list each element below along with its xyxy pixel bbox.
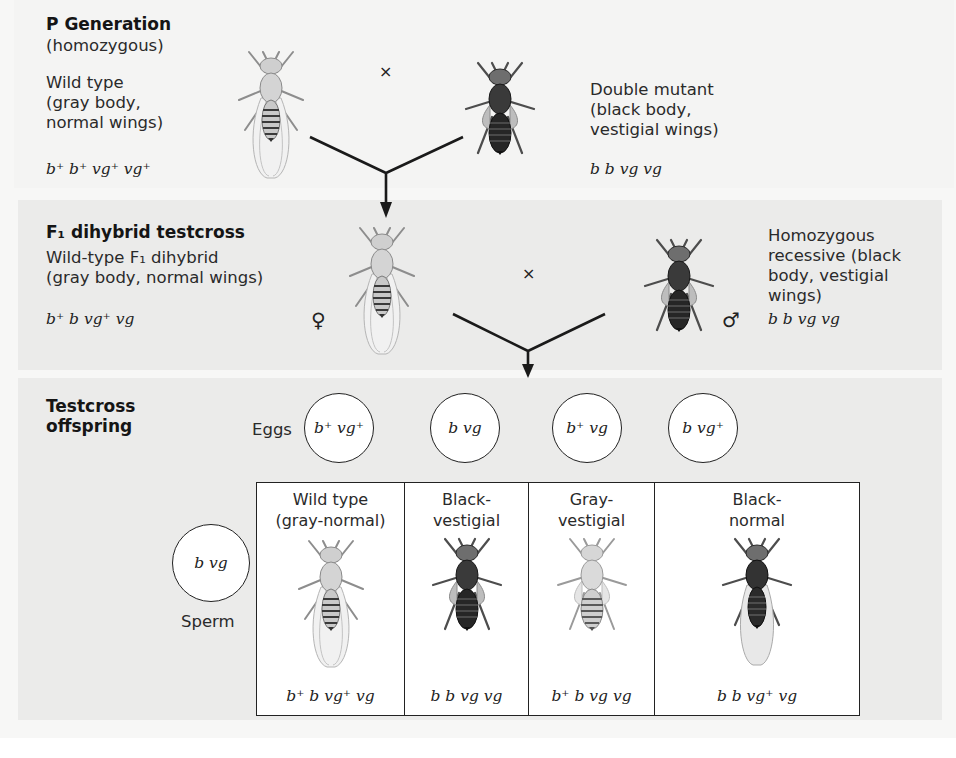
f1-male-fly-icon — [634, 232, 724, 342]
wild-type-genotype: b⁺ b⁺ vg⁺ vg⁺ — [46, 160, 151, 178]
f1-female-genotype: b⁺ b vg⁺ vg — [46, 310, 134, 328]
f1-male-label: Homozygous recessive (black body, vestig… — [768, 226, 901, 306]
offspring-cell-black-vestigial: Black- vestigial b b vg vg — [405, 483, 529, 715]
offspring-black-vestigial-fly-icon — [422, 535, 512, 645]
f1-cross-symbol: × — [522, 264, 535, 283]
p-generation-subtitle: (homozygous) — [46, 36, 164, 56]
f1-cross-arrow — [440, 300, 620, 380]
offspring-gray-vestigial-fly-icon — [547, 535, 637, 645]
double-mutant-label: Double mutant (black body, vestigial win… — [590, 80, 719, 140]
sperm-gamete: b vg — [172, 524, 250, 602]
testcross-offspring-title: Testcross offspring — [46, 396, 136, 436]
female-symbol-icon: ♀ — [311, 308, 326, 332]
offspring-black-normal-fly-icon — [712, 535, 802, 670]
f1-male-genotype: b b vg vg — [768, 310, 840, 328]
f1-female-fly-icon — [337, 218, 427, 358]
egg-gamete-2: b vg — [430, 393, 500, 463]
double-mutant-genotype: b b vg vg — [590, 160, 662, 178]
egg-gamete-4: b vg⁺ — [668, 393, 738, 463]
f1-testcross-title: F₁ dihybrid testcross — [46, 222, 245, 242]
eggs-label: Eggs — [252, 420, 292, 440]
punnett-offspring-grid: Wild type (gray-normal) b⁺ b vg⁺ vg Blac… — [256, 482, 860, 716]
wild-type-label: Wild type (gray body, normal wings) — [46, 73, 163, 133]
offspring-gray-normal-fly-icon — [286, 535, 376, 670]
p-generation-title: P Generation — [46, 14, 171, 34]
offspring-cell-wild-type: Wild type (gray-normal) b⁺ b vg⁺ vg — [257, 483, 405, 715]
egg-gamete-3: b⁺ vg — [552, 393, 622, 463]
cutoff-text-strip — [0, 738, 956, 758]
sperm-label: Sperm — [181, 612, 235, 632]
male-symbol-icon: ♂ — [722, 308, 740, 332]
offspring-cell-gray-vestigial: Gray- vestigial b⁺ b vg vg — [529, 483, 655, 715]
p-cross-symbol: × — [379, 62, 392, 81]
p-cross-arrow — [300, 130, 500, 220]
egg-gamete-1: b⁺ vg⁺ — [304, 393, 374, 463]
offspring-cell-black-normal: Black- normal b b vg⁺ vg — [655, 483, 859, 715]
f1-female-label: Wild-type F₁ dihybrid (gray body, normal… — [46, 248, 263, 288]
